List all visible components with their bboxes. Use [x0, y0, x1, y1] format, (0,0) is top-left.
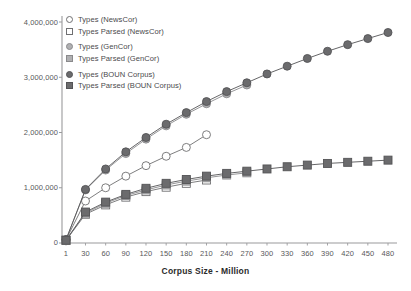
- legend-item-types-parsed-newscor: Types Parsed (NewsCor): [66, 26, 181, 38]
- circle-open-marker-icon: [66, 16, 73, 23]
- data-point: [344, 158, 352, 166]
- data-point: [162, 152, 170, 160]
- data-point: [102, 198, 110, 206]
- data-point: [243, 79, 251, 87]
- series-line: [66, 85, 247, 240]
- data-point: [81, 208, 89, 216]
- data-point: [142, 133, 150, 141]
- legend-label: Types Parsed (BOUN Corpus): [78, 81, 181, 90]
- data-point: [102, 165, 110, 173]
- square-filled-marker-icon: [66, 55, 73, 62]
- data-point: [142, 184, 150, 192]
- data-point: [263, 165, 271, 173]
- series-types-gencor: [62, 81, 251, 244]
- data-point: [62, 236, 70, 244]
- square-open-marker-icon: [66, 28, 73, 35]
- circle-filled-marker-icon: [66, 43, 73, 50]
- legend-item-types-boun: Types (BOUN Corpus): [66, 68, 181, 80]
- x-axis-title: Corpus Size - Million: [0, 266, 411, 276]
- x-tick-label-480: 480: [376, 249, 400, 258]
- data-point: [122, 148, 130, 156]
- data-point: [384, 156, 392, 164]
- legend-label: Types Parsed (GenCor): [78, 54, 159, 63]
- data-point: [283, 62, 291, 70]
- circle-filled-dark-marker-icon: [66, 71, 73, 78]
- legend-item-types-gencor: Types (GenCor): [66, 41, 181, 53]
- series-types-parsed-gencor: [62, 169, 251, 244]
- data-point: [203, 98, 211, 106]
- legend-label: Types Parsed (NewsCor): [78, 27, 164, 36]
- data-point: [203, 131, 211, 139]
- data-point: [324, 159, 332, 167]
- data-point: [223, 88, 231, 96]
- legend-item-types-parsed-boun: Types Parsed (BOUN Corpus): [66, 80, 181, 92]
- data-point: [243, 167, 251, 175]
- legend-label: Types (BOUN Corpus): [78, 70, 155, 79]
- legend-label: Types (NewsCor): [78, 15, 137, 24]
- data-point: [223, 169, 231, 177]
- data-point: [364, 35, 372, 43]
- data-point: [122, 172, 130, 180]
- data-point: [303, 54, 311, 62]
- legend-item-types-parsed-gencor: Types Parsed (GenCor): [66, 53, 181, 65]
- legend-label: Types (GenCor): [78, 42, 133, 51]
- data-point: [324, 47, 332, 55]
- legend-item-types-newscor: Types (NewsCor): [66, 14, 181, 26]
- plot-area: [0, 0, 411, 291]
- data-point: [182, 143, 190, 151]
- data-point: [162, 179, 170, 187]
- data-point: [81, 185, 89, 193]
- data-point: [263, 70, 271, 78]
- data-point: [182, 109, 190, 117]
- chart-container: 4,000,000 3,000,000 2,000,000 1,000,000 …: [0, 0, 411, 291]
- data-point: [303, 161, 311, 169]
- data-point: [182, 175, 190, 183]
- data-point: [364, 157, 372, 165]
- series-types-parsed-boun-corpus: [62, 156, 392, 244]
- data-point: [122, 190, 130, 198]
- data-point: [162, 120, 170, 128]
- data-point: [344, 41, 352, 49]
- chart-legend: Types (NewsCor) Types Parsed (NewsCor) T…: [66, 14, 181, 92]
- data-point: [142, 162, 150, 170]
- data-point: [283, 163, 291, 171]
- square-filled-dark-marker-icon: [66, 82, 73, 89]
- data-point: [102, 184, 110, 192]
- data-point: [203, 172, 211, 180]
- data-point: [384, 29, 392, 37]
